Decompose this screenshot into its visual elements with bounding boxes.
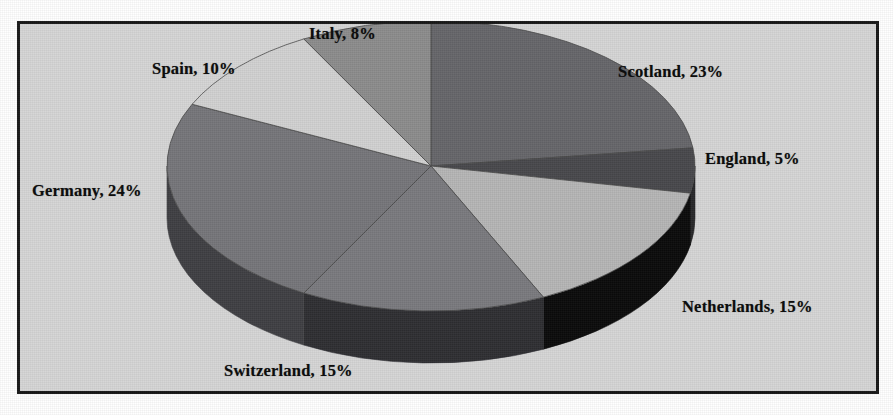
slice-label-switzerland: Switzerland, 15% <box>224 361 353 381</box>
pie-slice-scotland <box>431 21 693 166</box>
slice-label-italy: Italy, 8% <box>309 24 376 44</box>
slice-label-england: England, 5% <box>705 149 800 169</box>
pie-chart-figure: Italy, 8% Spain, 10% Scotland, 23% Engla… <box>0 0 893 415</box>
slice-label-scotland: Scotland, 23% <box>618 62 723 82</box>
slice-label-spain: Spain, 10% <box>152 59 236 79</box>
slice-label-germany: Germany, 24% <box>32 181 142 201</box>
slice-label-netherlands: Netherlands, 15% <box>682 297 813 317</box>
pie-top-surface <box>167 21 695 311</box>
pie-chart-svg <box>0 0 893 415</box>
